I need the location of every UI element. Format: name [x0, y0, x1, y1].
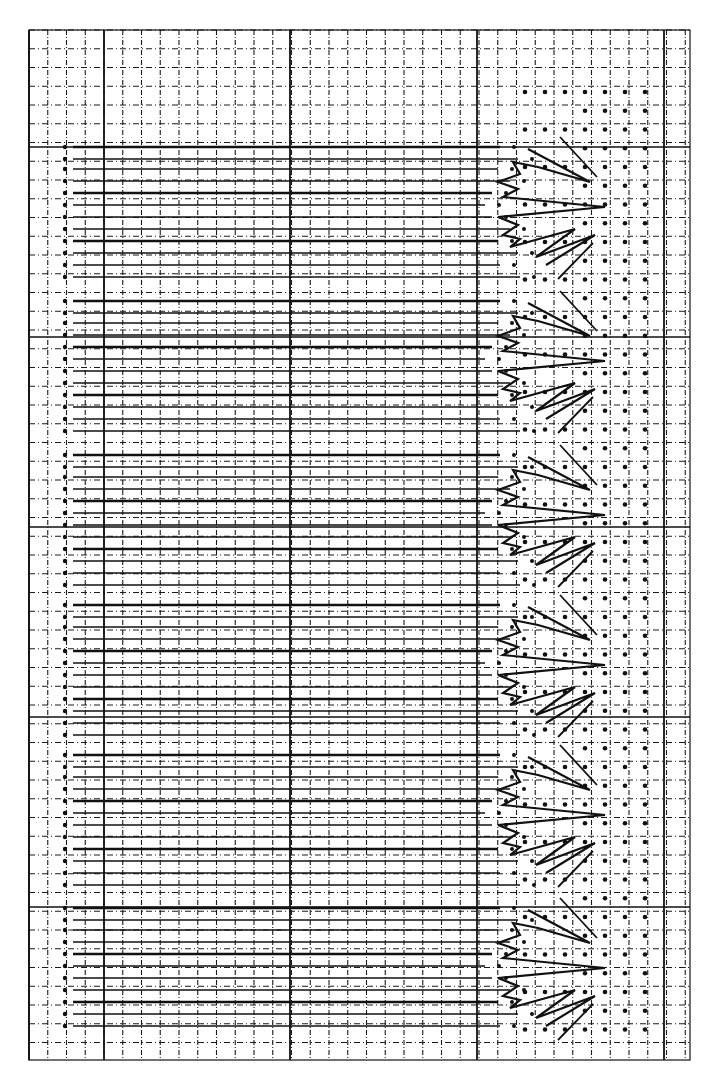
zigzag-boundary — [498, 137, 605, 1040]
horizontal-data-lines — [73, 147, 520, 1026]
lattice-diagram — [0, 0, 703, 1069]
diagram-svg — [0, 0, 703, 1069]
